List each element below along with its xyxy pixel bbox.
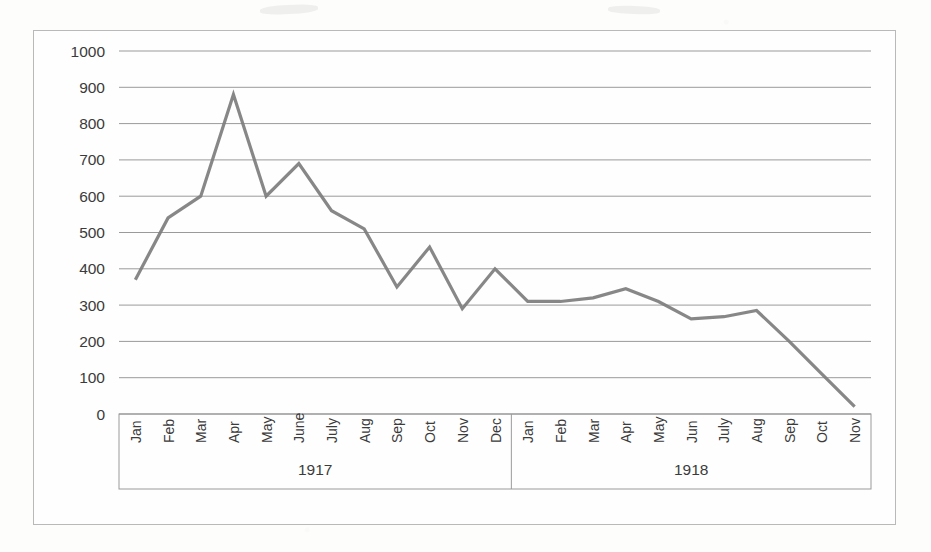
x-axis-tick-label: Oct <box>422 421 438 443</box>
x-axis-tick-label: Sep <box>389 418 405 443</box>
x-axis-tick-label: Mar <box>193 419 209 443</box>
y-axis-tick-label: 800 <box>79 115 105 132</box>
x-axis-tick-label: Nov <box>847 418 863 443</box>
x-axis-tick-label: Jan <box>520 420 536 443</box>
x-axis-tick-label: Apr <box>226 421 242 443</box>
y-axis-tick-label: 1000 <box>71 43 106 60</box>
x-axis-tick-label: June <box>291 412 307 443</box>
y-axis-tick-label: 100 <box>79 369 105 386</box>
x-axis-tick-label: Jan <box>128 420 144 443</box>
x-axis-group-label: 1918 <box>674 461 708 478</box>
scan-smudge <box>260 3 318 15</box>
data-series-line <box>135 95 854 407</box>
x-axis-tick-label: Sep <box>782 418 798 443</box>
line-chart: 10009008007006005004003002001000JanFebMa… <box>34 31 897 526</box>
x-axis-group-label: 1917 <box>298 461 332 478</box>
x-axis-tick-label: July <box>324 418 340 443</box>
x-axis-tick-label: Jun <box>684 420 700 443</box>
x-axis-tick-label: July <box>716 418 732 443</box>
y-axis-tick-label: 700 <box>79 151 105 168</box>
x-axis-tick-label: Nov <box>455 418 471 443</box>
y-axis-tick-label: 600 <box>79 188 105 205</box>
chart-plot-area: 10009008007006005004003002001000JanFebMa… <box>34 31 897 526</box>
y-axis-tick-label: 400 <box>79 260 105 277</box>
x-axis-tick-label: Feb <box>553 419 569 443</box>
scan-smudge <box>608 5 660 15</box>
y-axis-tick-label: 900 <box>79 79 105 96</box>
x-axis-tick-label: Dec <box>488 418 504 443</box>
y-axis-tick-label: 200 <box>79 333 105 350</box>
x-axis-tick-label: Feb <box>161 419 177 443</box>
x-axis-tick-label: Mar <box>586 419 602 443</box>
y-axis-tick-label: 500 <box>79 224 105 241</box>
y-axis-tick-label: 0 <box>96 406 105 423</box>
x-axis-tick-label: Aug <box>357 418 373 443</box>
x-axis-tick-label: Aug <box>749 418 765 443</box>
x-axis-tick-label: Oct <box>814 421 830 443</box>
x-axis-tick-label: May <box>651 417 667 443</box>
y-axis-tick-label: 300 <box>79 297 105 314</box>
chart-figure-frame: 10009008007006005004003002001000JanFebMa… <box>33 30 896 525</box>
x-axis-tick-label: Apr <box>618 421 634 443</box>
x-axis-tick-label: May <box>259 417 275 443</box>
